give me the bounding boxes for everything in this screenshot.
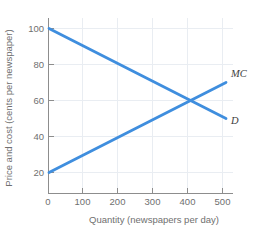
ytick-label-80: 80 xyxy=(33,59,44,70)
x-axis-title: Quantity (newspapers per day) xyxy=(89,214,219,225)
xtick-label-500: 500 xyxy=(215,196,231,207)
series-label-d: D xyxy=(230,115,239,126)
ytick-label-100: 100 xyxy=(28,23,44,34)
xtick-label-200: 200 xyxy=(110,196,126,207)
ytick-label-40: 40 xyxy=(33,131,44,142)
series-label-mc: MC xyxy=(230,68,248,79)
xtick-label-300: 300 xyxy=(145,196,161,207)
price-cost-quantity-chart: 20 40 60 80 100 0 100 200 300 400 500 MC… xyxy=(0,0,260,238)
ytick-label-20: 20 xyxy=(33,167,44,178)
chart-figure: 20 40 60 80 100 0 100 200 300 400 500 MC… xyxy=(0,0,260,238)
y-axis-title: Price and cost (cents per newspaper) xyxy=(3,29,14,186)
xtick-label-0: 0 xyxy=(45,196,50,207)
xtick-label-400: 400 xyxy=(180,196,196,207)
xtick-label-100: 100 xyxy=(75,196,91,207)
ytick-label-60: 60 xyxy=(33,95,44,106)
